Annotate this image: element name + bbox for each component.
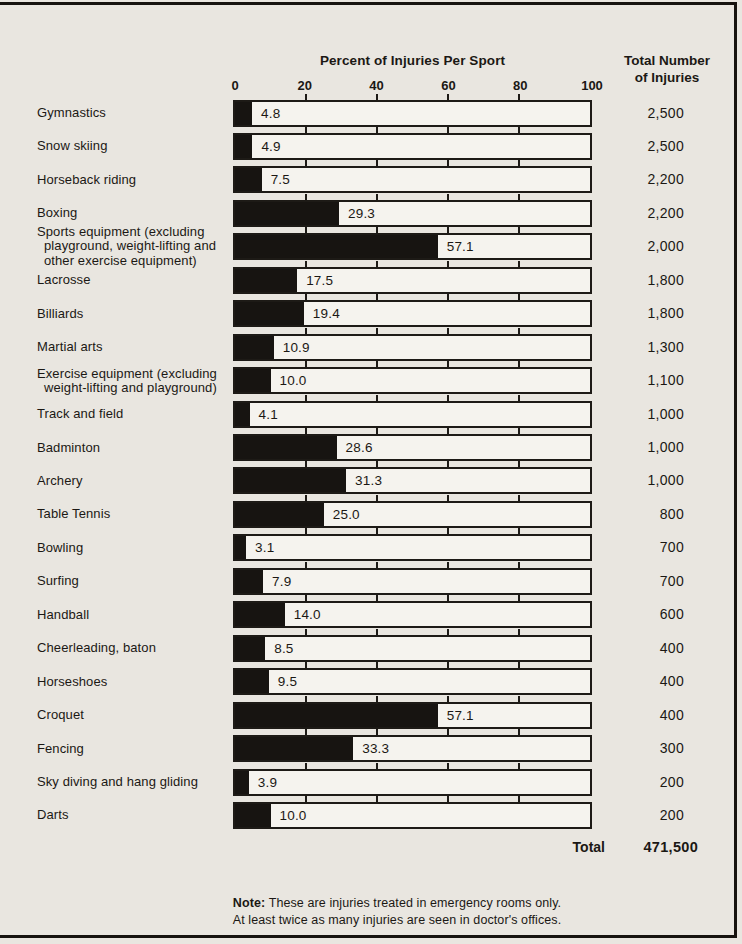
- grand-total-value: 471,500: [560, 839, 698, 855]
- bar-minor-tick: [518, 127, 520, 133]
- bar-minor-tick: [518, 495, 520, 501]
- total-value: 400: [560, 668, 684, 695]
- bar-minor-tick: [305, 328, 307, 334]
- bar-minor-tick: [518, 294, 520, 300]
- row-label: Sky diving and hang gliding: [37, 775, 238, 790]
- bar-minor-tick: [518, 528, 520, 534]
- bar-minor-tick: [376, 127, 378, 133]
- bar-minor-tick: [447, 595, 449, 601]
- bar-minor-tick: [376, 428, 378, 434]
- bar-minor-tick: [518, 696, 520, 702]
- percent-value: 8.5: [274, 637, 293, 660]
- bar-track: 10.9: [233, 334, 592, 361]
- total-value: 1,800: [560, 300, 684, 327]
- percent-value: 31.3: [355, 469, 382, 492]
- bar-track: 3.9: [233, 769, 592, 796]
- bar-minor-tick: [305, 227, 307, 233]
- bar-minor-tick: [376, 796, 378, 802]
- bar-minor-tick: [305, 796, 307, 802]
- bar-track: 14.0: [233, 601, 592, 628]
- row-label: Snow skiing: [37, 139, 238, 154]
- bar-minor-tick: [305, 729, 307, 735]
- bar-fill: [235, 168, 262, 191]
- bar-minor-tick: [305, 194, 307, 200]
- row-label: Darts: [37, 808, 238, 823]
- footnote-line1: Note: These are injuries treated in emer…: [167, 895, 627, 912]
- row-label: Bowling: [37, 541, 238, 556]
- bar-minor-tick: [305, 528, 307, 534]
- bar-track: 10.0: [233, 367, 592, 394]
- bar-minor-tick: [518, 261, 520, 267]
- total-value: 200: [560, 769, 684, 796]
- bar-fill: [235, 737, 353, 760]
- bar-track: 8.5: [233, 635, 592, 662]
- bar-minor-tick: [376, 461, 378, 467]
- total-value: 2,000: [560, 233, 684, 260]
- footnote-prefix: Note:: [233, 896, 265, 910]
- bar-track: 17.5: [233, 267, 592, 294]
- bar-minor-tick: [376, 261, 378, 267]
- bar-minor-tick: [518, 160, 520, 166]
- row-label: Handball: [37, 608, 238, 623]
- bar-minor-tick: [305, 763, 307, 769]
- percent-value: 10.0: [280, 369, 307, 392]
- percent-value: 25.0: [333, 503, 360, 526]
- bar-minor-tick: [518, 796, 520, 802]
- row-label: Badminton: [37, 440, 238, 455]
- bar-minor-tick: [518, 662, 520, 668]
- total-value: 400: [560, 635, 684, 662]
- x-axis-tick-label: 60: [441, 78, 455, 93]
- bar-minor-tick: [376, 94, 378, 100]
- bar-fill: [235, 102, 252, 125]
- footnote-line2: At least twice as many injuries are seen…: [167, 912, 627, 929]
- bar-minor-tick: [305, 261, 307, 267]
- bar-track: 33.3: [233, 735, 592, 762]
- bar-minor-tick: [518, 461, 520, 467]
- percent-value: 9.5: [278, 670, 297, 693]
- bar-minor-tick: [376, 763, 378, 769]
- bar-minor-tick: [305, 629, 307, 635]
- bar-fill: [235, 704, 438, 727]
- row-label: Croquet: [37, 708, 238, 723]
- percent-value: 7.5: [271, 168, 290, 191]
- bar-minor-tick: [376, 629, 378, 635]
- percent-value: 14.0: [294, 603, 321, 626]
- x-axis-tick-label: 100: [581, 78, 603, 93]
- bar-minor-tick: [305, 696, 307, 702]
- bar-track: 7.9: [233, 568, 592, 595]
- bar-minor-tick: [376, 160, 378, 166]
- x-axis-tick-label: 80: [513, 78, 527, 93]
- bar-minor-tick: [447, 562, 449, 568]
- bar-minor-tick: [518, 729, 520, 735]
- bar-minor-tick: [447, 395, 449, 401]
- row-label: Table Tennis: [37, 507, 238, 522]
- bar-minor-tick: [305, 94, 307, 100]
- row-label: Sports equipment (excluding playground, …: [37, 225, 238, 269]
- total-value: 1,300: [560, 334, 684, 361]
- bar-track: 57.1: [233, 702, 592, 729]
- bar-minor-tick: [376, 227, 378, 233]
- percent-value: 4.1: [259, 403, 278, 426]
- total-column-header-line1: Total Number: [604, 52, 730, 69]
- chart-page: Percent of Injuries Per Sport Total Numb…: [0, 0, 742, 944]
- total-value: 800: [560, 501, 684, 528]
- percent-value: 4.9: [261, 135, 280, 158]
- bar-minor-tick: [376, 194, 378, 200]
- bar-track: 28.6: [233, 434, 592, 461]
- bar-minor-tick: [376, 294, 378, 300]
- row-label: Cheerleading, baton: [37, 641, 238, 656]
- bar-minor-tick: [305, 595, 307, 601]
- bar-minor-tick: [305, 395, 307, 401]
- bar-track: 57.1: [233, 233, 592, 260]
- bar-fill: [235, 202, 339, 225]
- bar-minor-tick: [305, 428, 307, 434]
- bar-fill: [235, 503, 324, 526]
- bar-fill: [235, 670, 269, 693]
- bar-track: 19.4: [233, 300, 592, 327]
- row-label: Horseshoes: [37, 674, 238, 689]
- bar-fill: [235, 403, 250, 426]
- bar-minor-tick: [447, 94, 449, 100]
- total-value: 1,800: [560, 267, 684, 294]
- bar-fill: [235, 336, 274, 359]
- percent-value: 28.6: [346, 436, 373, 459]
